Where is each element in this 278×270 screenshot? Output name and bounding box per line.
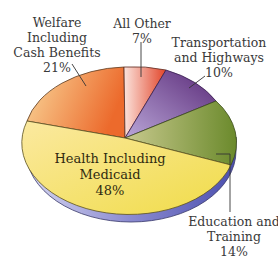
label-line: and Highways [172, 50, 267, 65]
label-line: Cash Benefits [13, 45, 100, 60]
label-value: 21% [13, 60, 100, 75]
label-value: 14% [188, 244, 278, 259]
label-line: Training [188, 229, 278, 244]
label-education: Education and Training 14% [188, 214, 278, 259]
label-line: Medicaid [54, 167, 165, 183]
label-line: Health Including [54, 151, 165, 167]
label-health: Health Including Medicaid 48% [54, 151, 165, 199]
label-line: Welfare [13, 15, 100, 30]
label-value: 7% [113, 31, 171, 46]
label-line: Transportation [172, 35, 267, 50]
label-line: Education and [188, 214, 278, 229]
label-value: 48% [54, 183, 165, 199]
label-welfare: Welfare Including Cash Benefits 21% [13, 15, 100, 75]
label-all-other: All Other 7% [113, 16, 171, 46]
label-line: Including [13, 30, 100, 45]
label-value: 10% [172, 65, 267, 80]
label-line: All Other [113, 16, 171, 31]
label-transport: Transportation and Highways 10% [172, 35, 267, 80]
